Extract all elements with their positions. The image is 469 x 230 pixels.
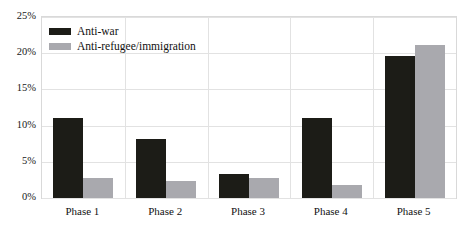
bar-chart: 0%5%10%15%20%25% Phase 1Phase 2Phase 3Ph… (0, 0, 469, 230)
x-axis-tick-label: Phase 5 (372, 206, 455, 217)
y-axis-tick-label: 5% (0, 156, 36, 167)
y-axis-tick-label: 10% (0, 120, 36, 131)
bar (302, 118, 332, 198)
legend-swatch-icon (49, 43, 71, 50)
bar (83, 178, 113, 198)
x-axis-tick-label: Phase 4 (289, 206, 372, 217)
x-axis-tick-label: Phase 1 (41, 206, 124, 217)
y-axis-tick-label: 25% (0, 11, 36, 22)
bar (166, 181, 196, 198)
x-axis-tick-label: Phase 2 (124, 206, 207, 217)
gridline-vertical (208, 17, 209, 198)
y-axis-tick-label: 20% (0, 47, 36, 58)
legend-item-label: Anti-war (77, 26, 119, 38)
bar (249, 178, 279, 198)
chart-legend: Anti-warAnti-refugee/immigration (49, 26, 196, 52)
bar (385, 56, 415, 198)
y-axis: 0%5%10%15%20%25% (0, 0, 38, 230)
x-axis-tick-label: Phase 3 (207, 206, 290, 217)
legend-item: Anti-war (49, 26, 196, 38)
gridline-horizontal (42, 198, 456, 199)
bar (415, 45, 445, 198)
gridline-horizontal (42, 17, 456, 18)
gridline-vertical (373, 17, 374, 198)
bar (219, 174, 249, 198)
legend-item-label: Anti-refugee/immigration (77, 41, 196, 53)
gridline-vertical (290, 17, 291, 198)
bar (332, 185, 362, 198)
bar (136, 139, 166, 198)
legend-swatch-icon (49, 28, 71, 35)
bar (53, 118, 83, 198)
gridline-horizontal (42, 53, 456, 54)
legend-item: Anti-refugee/immigration (49, 41, 196, 53)
y-axis-tick-label: 15% (0, 83, 36, 94)
y-axis-tick-label: 0% (0, 192, 36, 203)
